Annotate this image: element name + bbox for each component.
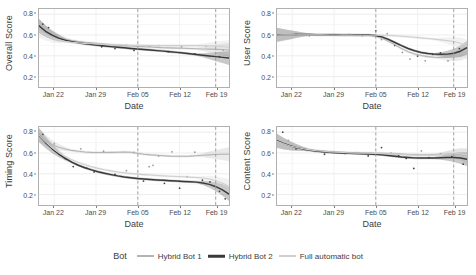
- panel-user-score: User Score 0.20.40.60.8 Jan 22Jan 29Feb …: [238, 0, 476, 118]
- y-axis-ticks: 0.20.40.60.8: [16, 8, 36, 88]
- y-tick-mark: [272, 195, 274, 196]
- y-tick-label: 0.2: [261, 74, 271, 81]
- y-tick-label: 0.4: [23, 171, 33, 178]
- data-points: [42, 133, 226, 199]
- x-tick-label: Feb 19: [206, 91, 228, 98]
- y-tick-label: 0.6: [23, 31, 33, 38]
- x-tick-label: Feb 19: [206, 209, 228, 216]
- legend-swatch: [208, 252, 225, 261]
- y-tick-mark: [34, 34, 36, 35]
- chart-legend: Bot Hybrid Bot 1Hybrid Bot 2Full automat…: [0, 246, 476, 266]
- y-tick-mark: [272, 77, 274, 78]
- x-tick-label: Jan 29: [85, 209, 106, 216]
- x-tick-label: Feb 19: [444, 209, 466, 216]
- x-tick-mark: [376, 88, 377, 90]
- x-axis-title: Date: [276, 101, 468, 111]
- x-tick-label: Feb 12: [407, 209, 429, 216]
- y-tick-mark: [272, 34, 274, 35]
- facet-grid: Overall Score 0.20.40.60.8 Jan 22Jan 29F…: [0, 0, 476, 240]
- legend-item[interactable]: Hybrid Bot 2: [208, 252, 273, 261]
- x-tick-mark: [334, 206, 335, 208]
- x-tick-label: Jan 29: [85, 91, 106, 98]
- panel-content-score: Content Score 0.20.40.60.8 Jan 22Jan 29F…: [238, 118, 476, 236]
- grid-lines: [277, 127, 467, 205]
- x-tick-mark: [376, 206, 377, 208]
- panel-timing-score: Timing Score 0.20.40.60.8 Jan 22Jan 29Fe…: [0, 118, 238, 236]
- plot-area: [38, 8, 230, 88]
- y-axis-ticks: 0.20.40.60.8: [254, 8, 274, 88]
- y-tick-label: 0.8: [23, 128, 33, 135]
- x-tick-mark: [418, 88, 419, 90]
- x-tick-label: Feb 05: [127, 209, 149, 216]
- y-axis-ticks: 0.20.40.60.8: [16, 126, 36, 206]
- x-tick-mark: [217, 206, 218, 208]
- y-axis-title: Overall Score: [2, 0, 16, 86]
- x-tick-mark: [217, 88, 218, 90]
- y-tick-label: 0.8: [23, 10, 33, 17]
- y-tick-mark: [34, 174, 36, 175]
- y-axis-title: Content Score: [240, 118, 254, 204]
- y-axis-title: Timing Score: [2, 118, 16, 204]
- x-tick-mark: [138, 88, 139, 90]
- legend-title: Bot: [113, 251, 127, 261]
- confidence-bands: [39, 128, 229, 201]
- plot-area: [38, 126, 230, 206]
- y-tick-label: 0.6: [261, 149, 271, 156]
- grid-lines: [277, 9, 467, 87]
- y-tick-label: 0.8: [261, 10, 271, 17]
- y-tick-mark: [34, 131, 36, 132]
- legend-item[interactable]: Full automatic bot: [279, 252, 363, 261]
- legend-label: Full automatic bot: [300, 252, 363, 261]
- y-tick-label: 0.4: [261, 53, 271, 60]
- plot-area: [276, 126, 468, 206]
- y-tick-label: 0.8: [261, 128, 271, 135]
- panel-overall-score: Overall Score 0.20.40.60.8 Jan 22Jan 29F…: [0, 0, 238, 118]
- y-tick-label: 0.4: [23, 53, 33, 60]
- legend-swatch: [137, 252, 154, 261]
- y-tick-mark: [272, 131, 274, 132]
- x-tick-label: Jan 22: [43, 209, 64, 216]
- y-tick-label: 0.2: [23, 192, 33, 199]
- y-tick-label: 0.6: [261, 31, 271, 38]
- x-tick-label: Jan 29: [323, 91, 344, 98]
- x-tick-label: Feb 05: [365, 209, 387, 216]
- x-tick-mark: [138, 206, 139, 208]
- y-tick-label: 0.4: [261, 171, 271, 178]
- y-tick-label: 0.2: [261, 192, 271, 199]
- x-axis-title: Date: [276, 219, 468, 229]
- x-tick-mark: [180, 88, 181, 90]
- x-tick-label: Feb 12: [407, 91, 429, 98]
- x-tick-label: Jan 22: [281, 91, 302, 98]
- legend-swatch: [279, 252, 296, 261]
- x-tick-mark: [96, 88, 97, 90]
- y-axis-title: User Score: [240, 0, 254, 86]
- x-tick-mark: [53, 88, 54, 90]
- x-tick-label: Feb 05: [127, 91, 149, 98]
- x-tick-label: Feb 19: [444, 91, 466, 98]
- x-tick-label: Jan 29: [323, 209, 344, 216]
- reference-lines: [376, 127, 454, 205]
- y-tick-label: 0.2: [23, 74, 33, 81]
- x-tick-label: Jan 22: [281, 209, 302, 216]
- y-tick-mark: [34, 152, 36, 153]
- y-tick-mark: [34, 13, 36, 14]
- y-tick-label: 0.6: [23, 149, 33, 156]
- x-tick-mark: [96, 206, 97, 208]
- y-axis-ticks: 0.20.40.60.8: [254, 126, 274, 206]
- y-tick-mark: [272, 13, 274, 14]
- x-tick-mark: [291, 206, 292, 208]
- x-tick-label: Feb 12: [169, 209, 191, 216]
- x-axis-title: Date: [38, 219, 230, 229]
- x-tick-mark: [418, 206, 419, 208]
- grid-lines: [39, 127, 229, 205]
- reference-lines: [376, 9, 454, 87]
- x-tick-mark: [291, 88, 292, 90]
- legend-item[interactable]: Hybrid Bot 1: [137, 252, 202, 261]
- x-tick-mark: [180, 206, 181, 208]
- plot-area: [276, 8, 468, 88]
- x-tick-label: Feb 12: [169, 91, 191, 98]
- y-tick-mark: [34, 195, 36, 196]
- y-tick-mark: [34, 77, 36, 78]
- y-tick-mark: [34, 56, 36, 57]
- y-tick-mark: [272, 174, 274, 175]
